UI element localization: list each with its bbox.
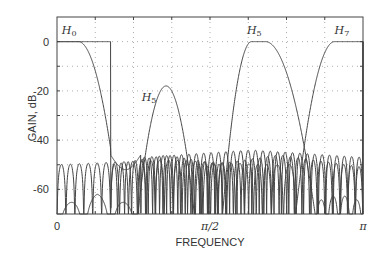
curve-label: H0: [61, 24, 77, 38]
y-tick-label: 0: [43, 36, 49, 48]
y-axis-label: GAIN, dB: [26, 95, 38, 141]
x-tick-label: 0: [54, 220, 60, 232]
curve-label: H5: [246, 24, 262, 38]
x-axis-label: FREQUENCY: [175, 236, 245, 248]
curve-label: H7: [334, 24, 350, 38]
curve-label: H5: [141, 91, 157, 105]
x-tick-label: π: [358, 220, 367, 233]
curve-labels: H0H5H5H7: [61, 24, 349, 104]
filter-bank-chart: 0-20-40-60 0π/2π FREQUENCY GAIN, dB H0H5…: [0, 0, 385, 257]
x-tick-label: π/2: [200, 220, 219, 233]
y-tick-label: -60: [33, 183, 49, 195]
